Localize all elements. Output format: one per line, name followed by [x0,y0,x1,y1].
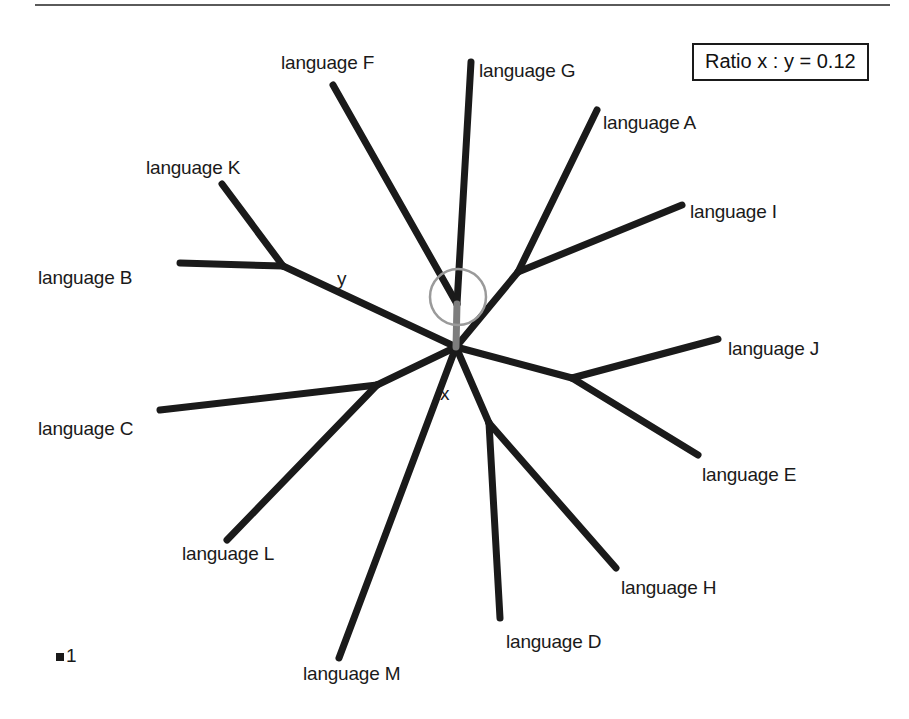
edge-node_CL-C [160,385,377,410]
edge-hub-node_JE [456,347,572,378]
taxon-label-language-b: language B [38,267,132,289]
taxon-label-language-d: language D [506,631,601,653]
taxon-label-language-a: language A [603,112,696,134]
taxon-label-language-e: language E [702,464,796,486]
edge-node_FG-F [333,85,457,304]
edge-node_DH-H [489,423,616,568]
edge-node_JE-J [572,339,718,378]
taxon-label-language-k: language K [146,157,240,179]
edge-hub-node_KB [283,266,456,347]
branch-label-y: y [337,268,347,290]
scale-bar-tick-icon [56,653,64,661]
edge-node_FG-G [457,62,471,304]
taxon-label-language-h: language H [621,577,716,599]
edge-hub-node_DH [456,347,489,423]
edge-hub-node_AI [456,272,518,347]
ratio-annotation-box: Ratio x : y = 0.12 [692,43,869,81]
edge-hub-M [339,347,456,658]
edge-node_KB-K [222,184,283,266]
scale-bar: 1 [56,645,77,667]
taxon-label-language-f: language F [281,52,374,74]
taxon-label-language-g: language G [479,60,575,82]
scale-bar-label: 1 [66,645,77,667]
edge-node_KB-B [180,263,283,266]
edge-node_DH-D [489,423,500,618]
edge-node_CL-L [227,385,377,540]
taxon-label-language-i: language I [690,201,777,223]
taxon-label-language-l: language L [182,543,274,565]
branch-label-x: x [440,383,450,405]
taxon-label-language-c: language C [38,418,133,440]
figure-canvas: language A language B language C languag… [0,0,909,719]
edge-node_JE-E [572,378,698,455]
taxon-label-language-m: language M [303,663,400,685]
taxon-label-language-j: language J [728,338,819,360]
